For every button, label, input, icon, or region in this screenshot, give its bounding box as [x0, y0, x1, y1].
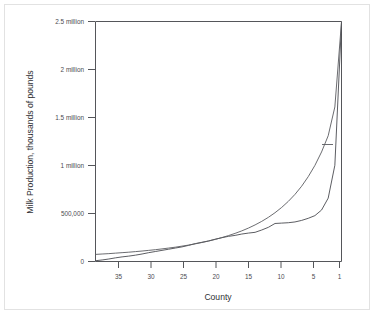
plot-frame [96, 22, 342, 262]
x-tick-label-5: 5 [312, 273, 316, 280]
x-tick-label-1: 1 [338, 273, 342, 280]
y-axis-tick-labels: 2.5 million 2 million 1.5 million 1 mill… [55, 18, 84, 265]
x-axis-title: County [204, 292, 232, 302]
milk-production-line-chart: 2.5 million 2 million 1.5 million 1 mill… [0, 0, 376, 329]
y-axis-ticks [88, 22, 95, 262]
y-axis-title: Milk Production, thousands of pounds [25, 70, 35, 213]
x-axis-ticks [119, 262, 340, 269]
x-tick-label-10: 10 [277, 273, 285, 280]
figure-caption-strip [4, 314, 370, 327]
series-line-empirical [96, 22, 342, 260]
x-tick-label-35: 35 [115, 273, 123, 280]
y-tick-label-2000000: 2 million [61, 66, 85, 73]
figure-page: 2.5 million 2 million 1.5 million 1 mill… [0, 0, 376, 329]
y-tick-label-1500000: 1.5 million [55, 114, 84, 121]
y-tick-label-0: 0 [80, 258, 84, 265]
x-tick-label-20: 20 [212, 273, 220, 280]
plot-box-outline [96, 22, 342, 262]
y-tick-label-1000000: 1 million [61, 162, 85, 169]
y-tick-label-2500000: 2.5 million [55, 18, 84, 25]
x-tick-label-15: 15 [245, 273, 253, 280]
x-tick-label-30: 30 [147, 273, 155, 280]
x-axis-tick-labels: 35 30 25 20 15 10 5 1 [115, 273, 342, 280]
y-tick-label-500000: 500,000 [61, 210, 85, 217]
x-tick-label-25: 25 [180, 273, 188, 280]
data-series-group [96, 22, 342, 261]
